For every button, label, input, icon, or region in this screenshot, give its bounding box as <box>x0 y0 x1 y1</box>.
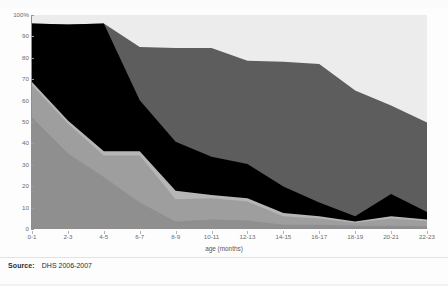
y-tick-mark <box>31 101 34 102</box>
x-tick-mark <box>176 231 177 234</box>
x-tick-label: 12-13 <box>240 233 256 240</box>
source-value: DHS 2006-2007 <box>42 262 92 269</box>
x-tick-label: 0-1 <box>28 233 37 240</box>
y-tick-label: 0 <box>3 226 29 232</box>
y-tick-mark <box>31 208 34 209</box>
y-tick-mark <box>31 165 34 166</box>
x-tick-label: 8-9 <box>171 233 180 240</box>
x-tick-label: 20-21 <box>383 233 399 240</box>
x-tick-mark <box>391 231 392 234</box>
x-tick-label: 14-15 <box>275 233 291 240</box>
x-tick-mark <box>212 231 213 234</box>
x-tick-mark <box>427 231 428 234</box>
chart-screenshot: 0102030405060708090100% 0-12-34-56-78-91… <box>0 0 448 286</box>
y-tick-mark <box>31 122 34 123</box>
y-tick-mark <box>31 15 34 16</box>
x-tick-mark <box>140 231 141 234</box>
y-tick-label: 80 <box>3 55 29 61</box>
y-tick-label: 70 <box>3 76 29 82</box>
x-tick-mark <box>68 231 69 234</box>
y-tick-mark <box>31 143 34 144</box>
x-tick-label: 22-23 <box>419 233 435 240</box>
x-tick-label: 16-17 <box>311 233 327 240</box>
source-note: Source:DHS 2006-2007 <box>8 262 92 269</box>
y-tick-mark <box>31 58 34 59</box>
x-tick-label: 2-3 <box>63 233 72 240</box>
x-axis: 0-12-34-56-78-910-1112-1314-1516-1718-19… <box>32 231 427 245</box>
y-axis: 0102030405060708090100% <box>0 15 29 229</box>
x-tick-label: 18-19 <box>347 233 363 240</box>
x-tick-mark <box>247 231 248 234</box>
y-tick-label: 60 <box>3 98 29 104</box>
y-tick-mark <box>31 186 34 187</box>
y-tick-label: 10 <box>3 205 29 211</box>
area-series-svg <box>32 15 427 228</box>
y-tick-mark <box>31 36 34 37</box>
x-tick-mark <box>319 231 320 234</box>
y-tick-label: 90 <box>3 33 29 39</box>
source-divider <box>0 257 448 258</box>
stacked-area-chart: 0102030405060708090100% 0-12-34-56-78-91… <box>0 7 448 255</box>
x-axis-label: age (months) <box>0 245 448 252</box>
x-tick-mark <box>32 231 33 234</box>
x-tick-mark <box>104 231 105 234</box>
plot-area <box>32 15 427 228</box>
y-tick-label: 100% <box>3 12 29 18</box>
y-tick-label: 30 <box>3 162 29 168</box>
x-axis-line <box>31 228 427 229</box>
y-tick-mark <box>31 229 34 230</box>
y-tick-label: 20 <box>3 183 29 189</box>
x-tick-label: 4-5 <box>99 233 108 240</box>
y-tick-label: 50 <box>3 119 29 125</box>
y-tick-label: 40 <box>3 140 29 146</box>
x-tick-label: 6-7 <box>135 233 144 240</box>
source-label: Source: <box>8 262 35 269</box>
top-edge-artifact <box>0 0 448 7</box>
y-tick-mark <box>31 79 34 80</box>
x-tick-mark <box>355 231 356 234</box>
x-tick-label: 10-11 <box>204 233 219 240</box>
x-tick-mark <box>283 231 284 234</box>
